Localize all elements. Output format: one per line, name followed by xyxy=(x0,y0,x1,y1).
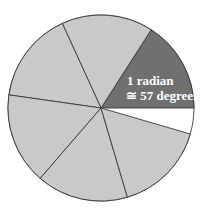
radian-pie-diagram: 1 radian≅ 57 degrees xyxy=(0,0,202,213)
radian-label-line1: 1 radian xyxy=(127,73,174,88)
radian-label-line2: ≅ 57 degrees xyxy=(126,88,198,103)
